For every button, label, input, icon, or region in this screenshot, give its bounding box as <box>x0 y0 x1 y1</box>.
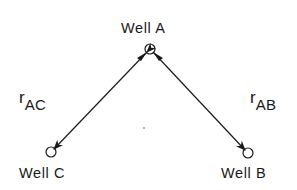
well-c-label: Well C <box>19 165 65 181</box>
arrowhead-ab-at-a <box>153 52 163 61</box>
connection-line-ab <box>153 52 245 150</box>
distance-label-ab: rAB <box>250 89 276 106</box>
well-a-label: Well A <box>121 20 165 36</box>
arrowhead-ac-at-a <box>137 52 147 61</box>
distance-label-ab-main: r <box>250 88 256 107</box>
distance-label-ab-sub: AB <box>256 96 277 113</box>
diagram-canvas: Well A Well B Well C rAC rAB <box>0 0 297 190</box>
scan-speck <box>143 127 145 129</box>
well-c-marker <box>46 147 56 157</box>
well-b-marker <box>243 148 253 158</box>
distance-label-ac-main: r <box>19 88 25 107</box>
well-b-label: Well B <box>221 165 266 181</box>
distance-label-ac-sub: AC <box>25 96 46 113</box>
connection-line-ac <box>54 52 147 149</box>
well-a-marker <box>145 44 155 54</box>
distance-label-ac: rAC <box>19 89 46 106</box>
